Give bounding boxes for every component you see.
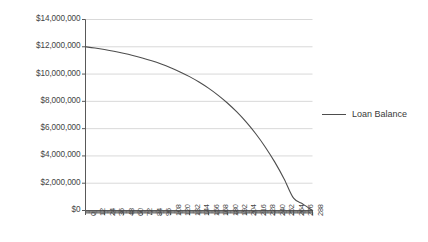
y-tick-label: $0: [72, 205, 81, 214]
x-tick-label: 252: [287, 204, 296, 216]
x-tick-label: 144: [202, 204, 211, 216]
y-tick-label: $4,000,000: [41, 150, 81, 159]
x-tick-label: 204: [249, 204, 258, 216]
x-tick-label: 24: [108, 208, 117, 216]
x-tick-label: 228: [268, 204, 277, 216]
legend-label-loan-balance: Loan Balance: [352, 109, 407, 119]
x-tick-label: 108: [174, 204, 183, 216]
x-tick-label: 96: [164, 208, 173, 216]
x-tick-label: 264: [297, 204, 306, 216]
chart-legend: Loan Balance: [322, 109, 407, 119]
x-tick-label: 192: [240, 204, 249, 216]
x-tick-label: 240: [278, 204, 287, 216]
y-tick-label: $14,000,000: [36, 14, 80, 23]
y-tick-label: $10,000,000: [36, 69, 80, 78]
x-tick-label: 48: [127, 208, 136, 216]
x-tick-label: 36: [117, 208, 126, 216]
y-tick-label: $2,000,000: [41, 178, 81, 187]
y-axis-tick-marks: [82, 20, 86, 211]
x-tick-label: 60: [136, 208, 145, 216]
x-tick-label: 0: [89, 212, 98, 216]
x-tick-label: 72: [145, 208, 154, 216]
y-tick-label: $12,000,000: [36, 41, 80, 50]
x-tick-label: 132: [193, 204, 202, 216]
x-tick-label: 84: [155, 208, 164, 216]
x-tick-label: 120: [183, 204, 192, 216]
x-tick-label: 288: [316, 204, 325, 216]
x-tick-label: 156: [212, 204, 221, 216]
chart-container: $14,000,000$12,000,000$10,000,000$8,000,…: [0, 0, 428, 242]
y-tick-label: $6,000,000: [41, 123, 81, 132]
x-tick-label: 216: [259, 204, 268, 216]
legend-swatch-loan-balance: [322, 114, 346, 115]
gridlines: [86, 20, 313, 211]
x-tick-label: 168: [221, 204, 230, 216]
x-tick-label: 12: [98, 208, 107, 216]
x-tick-label: 276: [306, 204, 315, 216]
y-tick-label: $8,000,000: [41, 96, 81, 105]
x-tick-label: 180: [231, 204, 240, 216]
